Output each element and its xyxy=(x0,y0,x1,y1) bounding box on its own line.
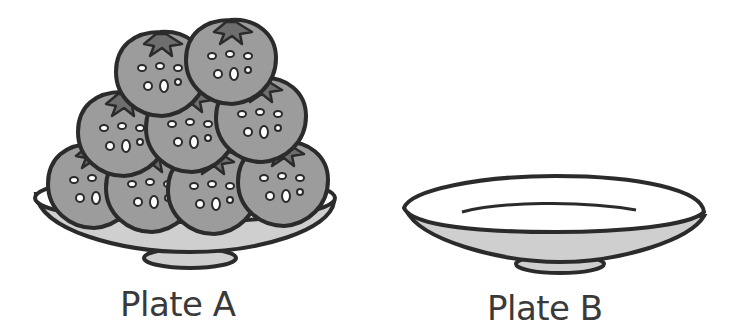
plate-a xyxy=(35,20,335,268)
plate-a-label: Plate A xyxy=(120,284,236,324)
plate-b-label: Plate B xyxy=(487,288,603,328)
illustration xyxy=(0,0,745,332)
strawberry-pile xyxy=(48,20,328,234)
plate-b xyxy=(404,176,704,273)
